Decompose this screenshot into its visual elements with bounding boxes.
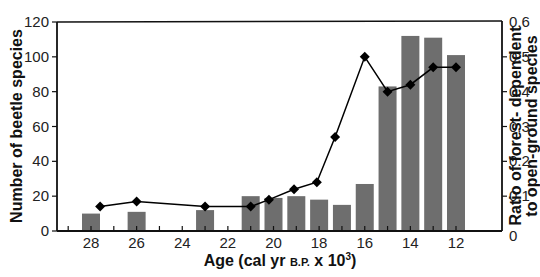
x-tick-label: 24	[174, 234, 191, 251]
x-tick-label: 12	[448, 234, 465, 251]
x-tick-label: 14	[402, 234, 419, 251]
plot-top-border	[57, 21, 502, 22]
x-axis-title: Age (cal yr B.P. x 103)	[204, 251, 357, 269]
plot-frame	[57, 21, 502, 22]
x-tick-label: 22	[220, 234, 237, 251]
y-tick-label: 20	[32, 187, 49, 204]
diamond-marker	[289, 184, 299, 194]
y-tick-label: 40	[32, 152, 49, 169]
bar	[379, 86, 397, 231]
diamond-marker	[360, 52, 370, 62]
diamond-marker	[312, 177, 322, 187]
bar	[447, 55, 465, 231]
y-tick-label: 0	[41, 222, 49, 239]
diamond-marker	[330, 132, 340, 142]
x-tick-label: 26	[128, 234, 145, 251]
y-axis-left: 020406080100120	[24, 13, 57, 239]
y-tick-label: 100	[24, 48, 49, 65]
bar	[242, 196, 260, 231]
y-axis-right-title-line2: to open-ground species	[523, 35, 540, 216]
x-tick-label: 18	[311, 234, 328, 251]
y-tick-label: 80	[32, 83, 49, 100]
x-tick-label: 28	[83, 234, 100, 251]
y-tick-label: 60	[32, 118, 49, 135]
diamond-marker	[132, 196, 142, 206]
bar	[287, 196, 305, 231]
x-tick-label: 20	[265, 234, 282, 251]
y-axis-right-title-line1: Ratio of forest- dependent	[507, 26, 524, 226]
y-tick-label: 120	[24, 13, 49, 30]
y-axis-left-title: Number of beetle species	[8, 29, 25, 223]
y2-tick-label: 0	[509, 227, 517, 244]
chart: 282624222018161412 020406080100120 00.10…	[0, 0, 540, 277]
x-tick-label: 16	[356, 234, 373, 251]
diamond-marker	[95, 202, 105, 212]
bar	[401, 36, 419, 231]
bar	[356, 184, 374, 231]
